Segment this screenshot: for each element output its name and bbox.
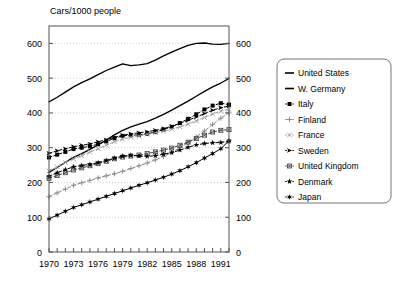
x-tick-label: 1973: [64, 259, 84, 269]
legend-label: Denmark: [298, 177, 333, 187]
legend-label: W. Germany: [298, 84, 346, 94]
chart-title: Cars/1000 people: [50, 6, 121, 16]
y-tick-label-left: 200: [27, 178, 42, 188]
legend-label: United Kingdom: [298, 161, 358, 171]
y-tick-label-right: 0: [236, 248, 241, 258]
legend-label: Finland: [298, 115, 326, 125]
y-tick-label-right: 100: [236, 213, 251, 223]
y-tick-label-left: 100: [27, 213, 42, 223]
y-tick-label-right: 300: [236, 143, 251, 153]
legend-label: United States: [298, 68, 349, 78]
y-tick-label-right: 200: [236, 178, 251, 188]
x-tick-label: 1970: [39, 259, 59, 269]
y-tick-label-left: 500: [27, 74, 42, 84]
legend-box: [277, 59, 391, 203]
y-tick-label-left: 600: [27, 39, 42, 49]
legend-label: Sweden: [298, 146, 329, 156]
y-tick-label-right: 600: [236, 39, 251, 49]
legend-label: France: [298, 130, 325, 140]
legend-label: Japan: [298, 192, 321, 202]
x-tick-label: 1985: [162, 259, 182, 269]
legend-label: Italy: [298, 99, 314, 109]
chart-legend[interactable]: United StatesW. GermanyItalyFinlandFranc…: [277, 59, 391, 203]
x-tick-label: 1979: [113, 259, 133, 269]
x-tick-label: 1991: [211, 259, 231, 269]
x-tick-label: 1982: [137, 259, 157, 269]
y-tick-label-left: 0: [37, 248, 42, 258]
y-tick-label-left: 300: [27, 143, 42, 153]
chart-figure: Cars/1000 people 19701973197619791982198…: [0, 0, 399, 292]
x-tick-label: 1976: [88, 259, 108, 269]
y-tick-label-right: 400: [236, 108, 251, 118]
y-tick-label-left: 400: [27, 108, 42, 118]
y-tick-label-right: 500: [236, 74, 251, 84]
x-tick-label: 1988: [186, 259, 206, 269]
